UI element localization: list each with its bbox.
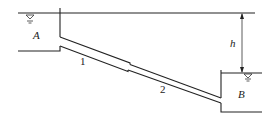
label-reservoir-b: B <box>238 88 245 100</box>
water-surface-symbol-b <box>244 74 252 81</box>
pipe-2-top-wall <box>130 65 221 99</box>
label-head-h: h <box>230 37 236 49</box>
label-pipe-1: 1 <box>80 55 86 67</box>
reservoir-a-bottom <box>18 46 60 51</box>
pipe-2-bottom-wall <box>128 70 221 103</box>
label-pipe-2: 2 <box>160 83 166 95</box>
head-dimension-arrow <box>240 13 244 73</box>
water-surface-symbol-a <box>26 15 34 23</box>
pipe-1-top-wall <box>60 37 130 65</box>
pipe-system-diagram: A 1 2 h B <box>0 0 277 124</box>
label-reservoir-a: A <box>32 29 40 41</box>
reservoir-b-bottom <box>221 103 262 112</box>
